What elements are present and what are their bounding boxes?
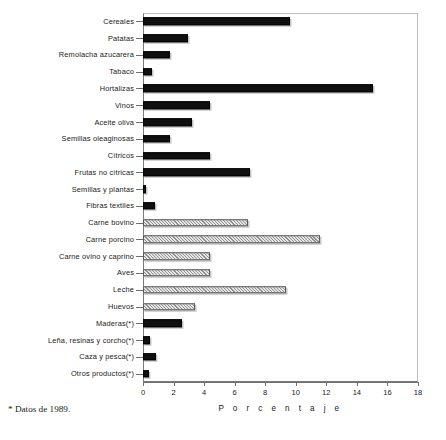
category-label: Aceite oliva bbox=[0, 118, 134, 127]
y-axis-tick bbox=[136, 55, 143, 56]
y-axis-tick bbox=[136, 307, 143, 308]
category-label: Cítricos bbox=[0, 151, 134, 160]
x-axis-tick-label: 14 bbox=[345, 388, 369, 397]
x-axis-tick-label: 8 bbox=[253, 388, 277, 397]
x-axis-tick bbox=[235, 382, 236, 386]
x-axis-line: 024681012141618 bbox=[143, 382, 418, 383]
x-axis-tick-label: 0 bbox=[131, 388, 155, 397]
x-axis-tick-label: 6 bbox=[223, 388, 247, 397]
bar-row: Maderas(*) bbox=[0, 315, 446, 332]
bar-row: Carne porcino bbox=[0, 231, 446, 248]
bar-row: Leche bbox=[0, 281, 446, 298]
bar-row: Fibras textiles bbox=[0, 198, 446, 215]
x-axis-tick bbox=[265, 382, 266, 386]
bar-row: Hortalizas bbox=[0, 80, 446, 97]
bar bbox=[143, 85, 373, 93]
category-label: Carne bovino bbox=[0, 218, 134, 227]
category-label: Otros productos(*) bbox=[0, 369, 134, 378]
bar-row: Huevos bbox=[0, 298, 446, 315]
x-axis-tick-label: 2 bbox=[162, 388, 186, 397]
y-axis-tick bbox=[136, 189, 143, 190]
y-axis-tick bbox=[136, 156, 143, 157]
bar bbox=[143, 336, 150, 344]
bar bbox=[143, 34, 188, 42]
bar-chart-figure: CerealesPatatasRemolacha azucareraTabaco… bbox=[0, 0, 446, 440]
y-axis-tick bbox=[136, 290, 143, 291]
x-axis-tick bbox=[296, 382, 297, 386]
bar-row: Vinos bbox=[0, 97, 446, 114]
y-axis-tick bbox=[136, 340, 143, 341]
bar bbox=[143, 51, 170, 59]
bar bbox=[143, 219, 248, 227]
x-axis-tick bbox=[387, 382, 388, 386]
bar-row: Aceite oliva bbox=[0, 114, 446, 131]
y-axis-tick bbox=[136, 72, 143, 73]
bar bbox=[143, 370, 149, 378]
bar-row: Remolacha azucarera bbox=[0, 47, 446, 64]
bar bbox=[143, 135, 170, 143]
bar bbox=[143, 185, 146, 193]
bar-row: Tabaco bbox=[0, 63, 446, 80]
y-axis-tick bbox=[136, 223, 143, 224]
y-axis-tick bbox=[136, 139, 143, 140]
bar-row: Patatas bbox=[0, 30, 446, 47]
bar bbox=[143, 320, 182, 328]
category-label: Frutas no cítricas bbox=[0, 168, 134, 177]
category-label: Hortalizas bbox=[0, 84, 134, 93]
category-label: Caza y pesca(*) bbox=[0, 352, 134, 361]
y-axis-tick bbox=[136, 273, 143, 274]
x-axis-tick bbox=[357, 382, 358, 386]
x-axis-tick bbox=[143, 382, 144, 386]
category-label: Fibras textiles bbox=[0, 201, 134, 210]
bar-row: Cereales bbox=[0, 13, 446, 30]
x-axis-tick-label: 16 bbox=[375, 388, 399, 397]
category-label: Carne porcino bbox=[0, 235, 134, 244]
bar bbox=[143, 202, 155, 210]
bar bbox=[143, 169, 250, 177]
bar-row: Carne ovino y caprino bbox=[0, 248, 446, 265]
x-axis-tick bbox=[204, 382, 205, 386]
category-label: Cereales bbox=[0, 17, 134, 26]
bar-row: Leña, resinas y corcho(*) bbox=[0, 332, 446, 349]
bar-row: Otros productos(*) bbox=[0, 365, 446, 382]
bar bbox=[143, 252, 210, 260]
bar-row: Cítricos bbox=[0, 147, 446, 164]
category-label: Maderas(*) bbox=[0, 319, 134, 328]
y-axis-tick bbox=[136, 172, 143, 173]
category-label: Vinos bbox=[0, 101, 134, 110]
bar-rows-container: CerealesPatatasRemolacha azucareraTabaco… bbox=[0, 13, 446, 382]
y-axis-tick bbox=[136, 256, 143, 257]
category-label: Carne ovino y caprino bbox=[0, 252, 134, 261]
bar bbox=[143, 236, 320, 244]
bar-row: Caza y pesca(*) bbox=[0, 348, 446, 365]
bar-row: Carne bovino bbox=[0, 214, 446, 231]
bar bbox=[143, 303, 195, 311]
footnote: * Datos de 1989. bbox=[8, 404, 70, 414]
category-label: Semillas oleaginosas bbox=[0, 134, 134, 143]
x-axis-tick-label: 12 bbox=[314, 388, 338, 397]
bar bbox=[143, 269, 210, 277]
y-axis-tick bbox=[136, 122, 143, 123]
bar-row: Semillas oleaginosas bbox=[0, 130, 446, 147]
y-axis-tick bbox=[136, 38, 143, 39]
bar bbox=[143, 286, 286, 294]
y-axis-tick bbox=[136, 21, 143, 22]
x-axis-tick bbox=[174, 382, 175, 386]
category-label: Patatas bbox=[0, 34, 134, 43]
bar bbox=[143, 353, 156, 361]
category-label: Tabaco bbox=[0, 67, 134, 76]
x-axis-title: P o r c e n t a j e bbox=[143, 404, 418, 413]
x-axis-tick-label: 18 bbox=[406, 388, 430, 397]
bar bbox=[143, 101, 210, 109]
bar bbox=[143, 18, 290, 26]
category-label: Leche bbox=[0, 285, 134, 294]
x-axis-tick bbox=[326, 382, 327, 386]
bar-row: Semillas y plantas bbox=[0, 181, 446, 198]
y-axis-tick bbox=[136, 105, 143, 106]
bar bbox=[143, 118, 192, 126]
x-axis-tick-label: 10 bbox=[284, 388, 308, 397]
category-label: Semillas y plantas bbox=[0, 185, 134, 194]
category-label: Remolacha azucarera bbox=[0, 50, 134, 59]
y-axis-tick bbox=[136, 88, 143, 89]
y-axis-tick bbox=[136, 239, 143, 240]
